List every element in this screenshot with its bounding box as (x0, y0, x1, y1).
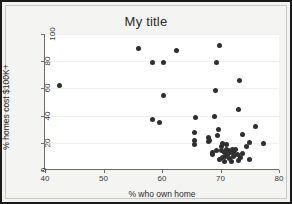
data-point (193, 115, 198, 120)
data-point (161, 93, 166, 98)
y-tick-label: 80 (43, 61, 52, 70)
data-point (261, 141, 266, 146)
data-point (192, 142, 197, 147)
y-tick-label: 0 (39, 170, 48, 174)
x-axis-label: % who own home (45, 189, 279, 199)
data-point (157, 120, 162, 125)
data-point (222, 159, 227, 164)
data-point (215, 133, 220, 138)
x-tick-label: 60 (158, 174, 167, 183)
gridline (45, 116, 279, 117)
data-point (161, 60, 166, 65)
x-tick-label: 70 (216, 174, 225, 183)
x-tick-label: 50 (99, 174, 108, 183)
y-tick-label: 100 (48, 34, 57, 47)
gridline (45, 88, 279, 89)
data-point (247, 157, 252, 162)
x-tick-mark (104, 170, 105, 173)
y-tick-mark (41, 34, 44, 35)
y-tick-label: 40 (43, 116, 52, 125)
x-tick-label: 80 (275, 174, 284, 183)
data-point (236, 158, 241, 163)
data-point (174, 48, 179, 53)
data-point (236, 107, 241, 112)
plot-area (45, 34, 279, 170)
data-point (192, 130, 197, 135)
x-tick-label: 40 (41, 174, 50, 183)
data-point (212, 114, 217, 119)
gridline (45, 34, 279, 35)
data-point (224, 142, 229, 147)
y-tick-label: 20 (43, 143, 52, 152)
data-point (214, 60, 219, 65)
y-tick-label: 60 (43, 88, 52, 97)
graph-panel: My title 4050607080 020406080100 % who o… (5, 5, 287, 199)
data-point (216, 127, 221, 132)
x-tick-mark (279, 170, 280, 173)
graph-window: My title 4050607080 020406080100 % who o… (0, 0, 292, 204)
x-tick-mark (221, 170, 222, 173)
y-axis-label: % homes cost $100K+ (1, 64, 11, 149)
x-tick-mark (162, 170, 163, 173)
